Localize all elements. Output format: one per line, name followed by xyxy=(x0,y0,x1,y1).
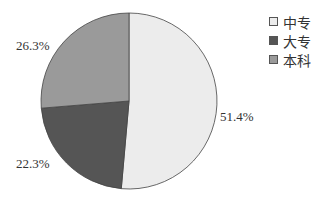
legend-swatch xyxy=(269,55,278,64)
legend-item-benke: 本科 xyxy=(269,50,311,69)
legend: 中专 大专 本科 xyxy=(269,12,311,69)
legend-item-dazhuan: 大专 xyxy=(269,31,311,50)
slice-label-zhongzhuan: 51.4% xyxy=(220,109,254,125)
legend-label: 本科 xyxy=(283,50,311,70)
slice-label-dazhuan: 22.3% xyxy=(16,156,50,172)
slice-dazhuan xyxy=(41,101,129,189)
slice-zhongzhuan xyxy=(121,13,217,189)
legend-swatch xyxy=(269,17,278,26)
legend-label: 中专 xyxy=(283,12,311,32)
slice-label-benke: 26.3% xyxy=(16,38,50,54)
legend-swatch xyxy=(269,36,278,45)
legend-item-zhongzhuan: 中专 xyxy=(269,12,311,31)
slice-benke xyxy=(41,13,129,108)
legend-label: 大专 xyxy=(283,31,311,51)
